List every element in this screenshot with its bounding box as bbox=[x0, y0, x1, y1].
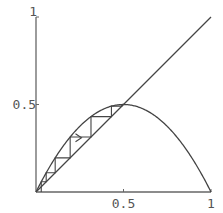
x-tick-label: 0.5 bbox=[112, 197, 135, 210]
plot-lines bbox=[36, 17, 211, 192]
x-tick-label: 1 bbox=[207, 197, 215, 210]
y-tick-label: 1 bbox=[29, 5, 37, 18]
identity-line bbox=[36, 17, 211, 192]
y-tick-label: 0.5 bbox=[13, 98, 36, 111]
arrow-right-icon bbox=[76, 134, 82, 142]
logistic-curve bbox=[36, 105, 211, 193]
